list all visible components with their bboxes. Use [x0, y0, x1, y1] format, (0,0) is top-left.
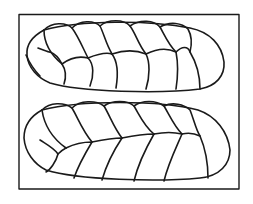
illustration-canvas	[0, 0, 253, 204]
top-loaf	[26, 21, 224, 92]
bottom-loaf	[24, 102, 230, 182]
frame-border	[19, 15, 239, 190]
challah-drawing	[0, 0, 253, 204]
